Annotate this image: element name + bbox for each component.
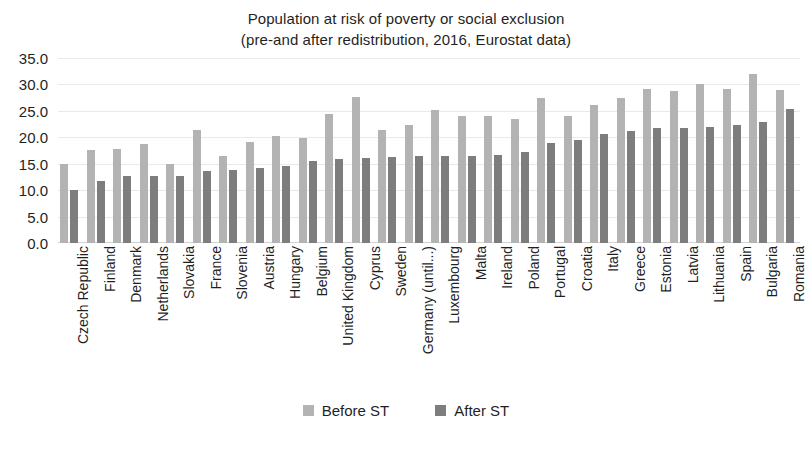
bar-group — [350, 58, 377, 243]
bar-before — [246, 142, 254, 243]
bar-group — [323, 58, 350, 243]
bar-before — [431, 110, 439, 243]
bar-after — [256, 168, 264, 243]
x-axis-tick-label: Malta — [474, 246, 488, 280]
bar-before — [696, 84, 704, 243]
bar-before — [564, 116, 572, 243]
bar-before — [299, 138, 307, 243]
bar-after — [600, 134, 608, 243]
bar-group — [138, 58, 165, 243]
x-axis-tick-label: Greece — [633, 246, 647, 292]
x-axis-tick-label: Romania — [792, 246, 806, 302]
bar-after — [176, 176, 184, 243]
bar-before — [219, 156, 227, 243]
bar-before — [378, 130, 386, 243]
bar-group — [509, 58, 536, 243]
legend-item-before-st[interactable]: Before ST — [303, 402, 390, 419]
bar-before — [484, 116, 492, 243]
legend-label: After ST — [454, 402, 509, 419]
bar-after — [494, 155, 502, 243]
y-axis-tick-25-0: 25.0 — [19, 103, 48, 118]
bar-after — [468, 156, 476, 243]
bar-group — [429, 58, 456, 243]
bar-after — [680, 128, 688, 243]
bar-group — [747, 58, 774, 243]
x-axis-tick-label: Portugal — [553, 246, 567, 298]
x-axis-tick-label: Bulgaria — [765, 246, 779, 297]
bar-before — [405, 125, 413, 243]
bar-after — [706, 127, 714, 243]
y-axis-tick-35-0: 35.0 — [19, 51, 48, 66]
bar-after — [627, 131, 635, 243]
bar-before — [352, 97, 360, 243]
bar-before — [723, 89, 731, 243]
bar-before — [670, 91, 678, 243]
bar-after — [229, 170, 237, 243]
bar-before — [272, 136, 280, 243]
bar-group — [244, 58, 271, 243]
bar-group — [164, 58, 191, 243]
bar-group — [85, 58, 112, 243]
bar-after — [309, 161, 317, 243]
chart-title-line-2: (pre-and after redistribution, 2016, Eur… — [0, 29, 812, 50]
bar-after — [547, 143, 555, 243]
bar-group — [482, 58, 509, 243]
x-axis-tick-label: Sweden — [394, 246, 408, 297]
bar-before — [325, 114, 333, 243]
x-axis-tick-label: Latvia — [686, 246, 700, 283]
x-axis-tick-label: Estonia — [659, 246, 673, 293]
bar-after — [415, 156, 423, 243]
y-axis-tick-20-0: 20.0 — [19, 130, 48, 145]
bar-before — [458, 116, 466, 243]
x-axis-tick-label: Czech Republic — [76, 246, 90, 344]
bar-group — [721, 58, 748, 243]
bar-group — [403, 58, 430, 243]
x-axis-tick-label: Poland — [527, 246, 541, 290]
legend-label: Before ST — [322, 402, 390, 419]
bar-group — [774, 58, 801, 243]
x-axis-tick-label: Hungary — [288, 246, 302, 299]
x-axis-tick-label: France — [209, 246, 223, 290]
bar-after — [70, 190, 78, 243]
bar-before — [643, 89, 651, 243]
y-axis-tick-0-0: 0.0 — [27, 236, 48, 251]
bar-group — [588, 58, 615, 243]
bar-before — [60, 164, 68, 243]
x-axis-tick-label: Slovakia — [182, 246, 196, 299]
x-axis-tick-label: Luxembourg — [447, 246, 461, 324]
bar-after — [733, 125, 741, 243]
bar-before — [537, 98, 545, 243]
bar-before — [590, 105, 598, 243]
y-axis-tick-15-0: 15.0 — [19, 156, 48, 171]
bar-group — [217, 58, 244, 243]
x-axis-tick-label: Germany (until...) — [421, 246, 435, 354]
x-axis-tick-label: United Kingdom — [341, 246, 355, 346]
chart-legend: Before STAfter ST — [0, 402, 812, 419]
legend-item-after-st[interactable]: After ST — [435, 402, 509, 419]
y-axis-tick-10-0: 10.0 — [19, 183, 48, 198]
y-axis-labels: 35.030.025.020.015.010.05.00.0 — [0, 58, 52, 243]
bar-group — [270, 58, 297, 243]
chart-title: Population at risk of poverty or social … — [0, 8, 812, 50]
x-axis-tick-label: Finland — [103, 246, 117, 292]
bar-after — [362, 158, 370, 243]
x-axis-tick-label: Spain — [739, 246, 753, 282]
x-axis-tick-label: Slovenia — [235, 246, 249, 300]
x-axis-tick-label: Cyprus — [368, 246, 382, 290]
bar-before — [113, 149, 121, 243]
bar-before — [511, 119, 519, 243]
bar-before — [193, 130, 201, 243]
bar-group — [535, 58, 562, 243]
bar-series-layer — [58, 58, 800, 243]
chart-title-line-1: Population at risk of poverty or social … — [248, 10, 565, 27]
y-axis-tick-30-0: 30.0 — [19, 77, 48, 92]
bar-group — [191, 58, 218, 243]
x-axis-tick-label: Croatia — [580, 246, 594, 291]
x-axis-labels: Czech RepublicFinlandDenmarkNetherlandsS… — [58, 246, 800, 366]
bar-after — [521, 152, 529, 243]
x-axis-tick-label: Ireland — [500, 246, 514, 289]
x-axis-tick-label: Belgium — [315, 246, 329, 297]
bar-group — [297, 58, 324, 243]
bar-after — [574, 140, 582, 243]
bar-group — [641, 58, 668, 243]
